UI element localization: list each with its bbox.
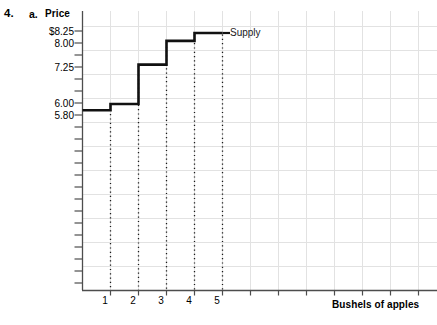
- x-tick-label: 2: [123, 295, 143, 306]
- figure-canvas: 4. a. Price Bushels of apples $8.25 8.00…: [0, 0, 437, 325]
- y-tick-label: 7.25: [12, 62, 74, 73]
- x-tick-label: 4: [179, 295, 199, 306]
- y-tick-label: 5.80: [12, 110, 74, 121]
- x-tick-label: 5: [207, 295, 227, 306]
- y-axis-tick-marks: [75, 31, 83, 283]
- y-tick-label: 8.00: [12, 38, 74, 49]
- x-tick-label: 1: [95, 295, 115, 306]
- y-tick-label: 6.00: [12, 98, 74, 109]
- horizontal-gridlines: [83, 27, 437, 267]
- y-tick-label: $8.25: [12, 26, 74, 37]
- supply-series-label: Supply: [230, 27, 261, 38]
- vertical-gridlines: [111, 11, 419, 291]
- x-tick-label: 3: [151, 295, 171, 306]
